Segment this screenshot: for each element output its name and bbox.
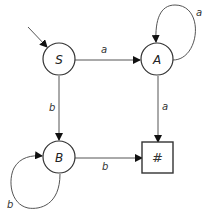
state-label-a: A [152,53,161,67]
node-final: # [142,142,173,173]
start-arrow [28,27,47,47]
edge-label-b-to-final: b [102,161,108,172]
final-state-label: # [152,150,163,165]
edge-label-s-to-b: b [49,102,55,113]
node-b: B [43,141,75,173]
state-label-s: S [55,53,63,67]
edge-label-b-loop: b [7,199,13,210]
node-s: S [43,43,75,75]
edge-label-a-to-final: a [162,101,168,112]
edge-label-a-loop: a [196,7,202,18]
node-a: A [141,43,173,75]
edge-label-s-to-a: a [101,44,107,55]
state-label-b: B [55,151,63,165]
automaton-diagram: a b a a b b S A B # [0,0,210,218]
